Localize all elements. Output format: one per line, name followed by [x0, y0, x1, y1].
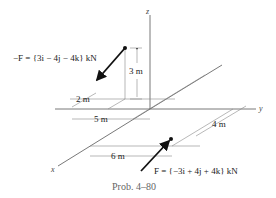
force-diagram: z y x 3 m 2 m 5 m 4 m 6 m −F = {3i − 4j … — [0, 0, 276, 198]
construction-line — [108, 99, 125, 109]
neg-f-label: −F = {3i − 4j − 4k} kN — [13, 53, 97, 63]
z-axis-label: z — [145, 7, 150, 16]
lower-point — [169, 137, 173, 141]
neg-x-line — [150, 65, 222, 109]
y-axis-label: y — [258, 104, 263, 113]
dim-4m: 4 m — [212, 119, 226, 129]
dim-3m: 3 m — [129, 66, 143, 76]
x-axis-label: x — [50, 165, 55, 174]
construction-line — [133, 75, 205, 119]
neg-f-arrow — [97, 48, 125, 80]
dim-2m: 2 m — [76, 94, 90, 104]
dim-5m: 5 m — [94, 114, 108, 124]
dim-6m: 6 m — [111, 151, 125, 161]
caption: Prob. 4–80 — [112, 181, 156, 192]
f-label: F = {−3i + 4j + 4k} kN — [154, 166, 238, 176]
